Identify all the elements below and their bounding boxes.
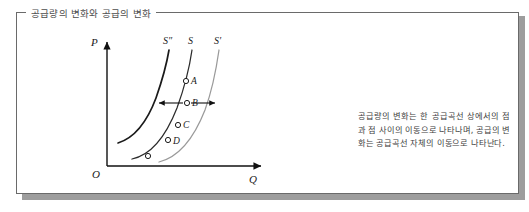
curve-label-s-prime: S′ [214, 35, 222, 46]
figure-shadow-bottom [22, 194, 525, 200]
data-point-d-label: D [172, 136, 180, 146]
supply-curve-s [132, 50, 192, 159]
data-point-b [184, 100, 189, 105]
figure-title: 공급량의 변화와 공급의 변화 [26, 6, 156, 20]
y-axis-label: P [90, 36, 98, 48]
data-point-a [183, 78, 188, 83]
supply-curve-chart: P Q O S″ S S′ A B C [85, 26, 285, 191]
curve-label-s-double-prime: S″ [163, 35, 173, 46]
curve-label-s: S [188, 35, 193, 46]
figure-root: 공급량의 변화와 공급의 변화 P Q O [0, 0, 529, 212]
figure-title-text: 공급량의 변화와 공급의 변화 [31, 6, 151, 20]
data-point-unlabeled [145, 153, 150, 158]
data-point-a-label: A [190, 76, 197, 86]
data-point-c [175, 122, 180, 127]
caption-text: 공급량의 변화는 한 공급곡선 상에서의 점과 점 사이의 이동으로 나타나며,… [358, 110, 510, 151]
figure-shadow-right [519, 16, 525, 200]
caption-block: 공급량의 변화는 한 공급곡선 상에서의 점과 점 사이의 이동으로 나타나며,… [358, 110, 510, 151]
data-point-d [165, 137, 170, 142]
x-axis-label: Q [249, 173, 257, 185]
data-point-b-label: B [192, 98, 198, 108]
data-point-c-label: C [183, 120, 190, 130]
origin-label: O [92, 168, 100, 180]
supply-curve-s-double-prime [118, 50, 169, 143]
